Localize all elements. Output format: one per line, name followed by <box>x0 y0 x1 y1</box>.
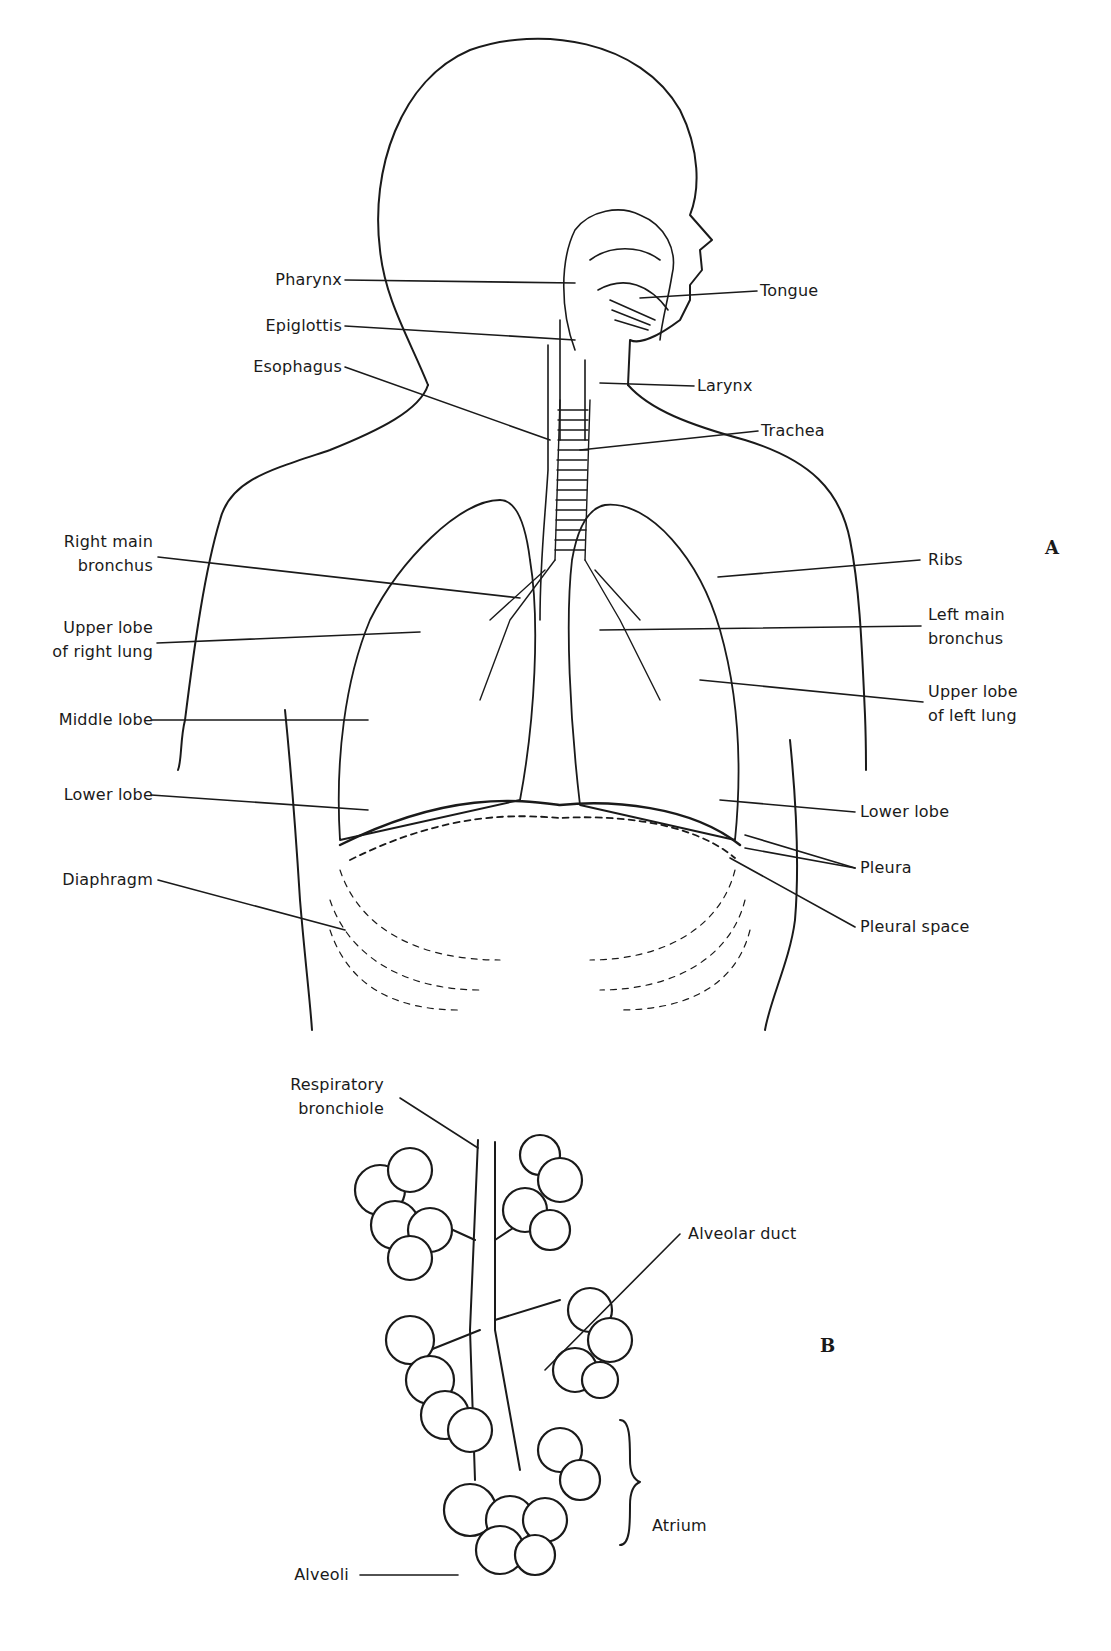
label-esophagus: Esophagus <box>253 357 342 377</box>
label-right-main-bronchus-line2: bronchus <box>78 556 153 576</box>
label-larynx: Larynx <box>697 376 753 396</box>
label-pleural-space: Pleural space <box>860 917 970 937</box>
label-alveolar-duct: Alveolar duct <box>688 1224 796 1244</box>
leader-lines <box>151 280 923 1575</box>
label-upper-lobe-right-line2: of right lung <box>52 642 153 662</box>
label-left-main-bronchus-line1: Left main <box>928 605 1005 625</box>
label-pharynx: Pharynx <box>275 270 342 290</box>
label-upper-lobe-right-line1: Upper lobe <box>63 618 153 638</box>
panel-marker-a: A <box>1045 537 1059 558</box>
label-tongue: Tongue <box>760 281 818 301</box>
label-epiglottis: Epiglottis <box>266 316 342 336</box>
label-lower-lobe-left: Lower lobe <box>860 802 949 822</box>
label-ribs: Ribs <box>928 550 963 570</box>
label-upper-lobe-left-line2: of left lung <box>928 706 1017 726</box>
label-trachea: Trachea <box>761 421 825 441</box>
label-upper-lobe-left-line1: Upper lobe <box>928 682 1018 702</box>
label-left-main-bronchus-line2: bronchus <box>928 629 1003 649</box>
alveoli-illustration <box>355 1135 640 1575</box>
label-right-main-bronchus-line1: Right main <box>64 532 153 552</box>
label-middle-lobe: Middle lobe <box>59 710 153 730</box>
ribs <box>330 870 750 1010</box>
body-outline <box>178 39 866 1030</box>
panel-marker-b: B <box>820 1335 835 1356</box>
respiratory-system-illustration <box>0 0 1111 1651</box>
label-alveoli: Alveoli <box>294 1565 349 1585</box>
label-pleura: Pleura <box>860 858 912 878</box>
label-atrium: Atrium <box>652 1516 707 1536</box>
label-respiratory-bronchiole-line2: bronchiole <box>298 1099 384 1119</box>
label-lower-lobe-right: Lower lobe <box>64 785 153 805</box>
lungs <box>339 500 740 860</box>
label-diaphragm: Diaphragm <box>62 870 153 890</box>
label-respiratory-bronchiole-line1: Respiratory <box>290 1075 384 1095</box>
